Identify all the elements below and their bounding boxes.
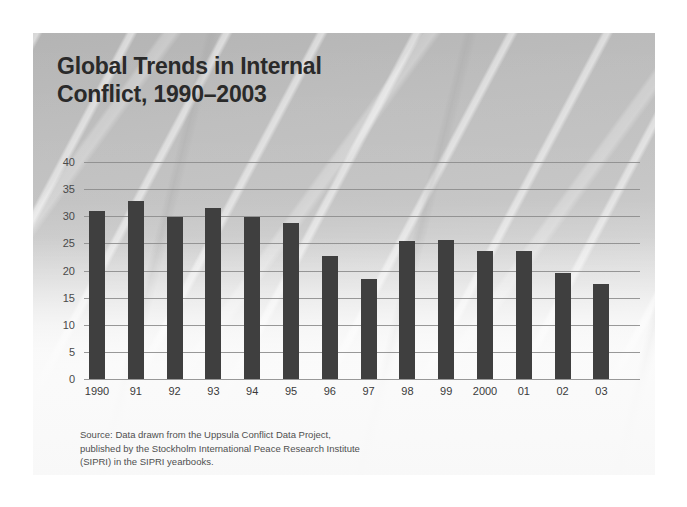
- y-axis-label: 35: [63, 183, 75, 195]
- source-note: Source: Data drawn from the Uppsula Conf…: [80, 428, 550, 469]
- x-axis-label: 01: [518, 385, 530, 397]
- bar: [322, 256, 338, 379]
- slide-page: Global Trends in Internal Conflict, 1990…: [0, 0, 687, 507]
- x-axis-label: 1990: [85, 385, 109, 397]
- y-axis-label: 15: [63, 292, 75, 304]
- y-axis-label: 10: [63, 319, 75, 331]
- x-axis-label: 99: [440, 385, 452, 397]
- bar: [555, 273, 571, 379]
- bar: [516, 251, 532, 379]
- y-axis-label: 0: [69, 373, 75, 385]
- x-axis-label: 93: [207, 385, 219, 397]
- bar-chart: 0510152025303540 19909192939495969798992…: [33, 33, 655, 475]
- x-axis-label: 98: [401, 385, 413, 397]
- bar: [89, 211, 105, 379]
- bar: [438, 240, 454, 379]
- x-axis-label: 03: [595, 385, 607, 397]
- x-axis-label: 02: [556, 385, 568, 397]
- bar: [593, 284, 609, 379]
- source-line-3: (SIPRI) in the SIPRI yearbooks.: [80, 455, 550, 469]
- bar: [361, 279, 377, 379]
- y-axis-label: 30: [63, 210, 75, 222]
- y-axis-label: 20: [63, 265, 75, 277]
- source-line-1: Source: Data drawn from the Uppsula Conf…: [80, 428, 550, 442]
- bar: [205, 208, 221, 379]
- bar-series: [84, 162, 640, 379]
- y-axis-label: 25: [63, 237, 75, 249]
- bar: [244, 217, 260, 379]
- x-axis-label: 97: [362, 385, 374, 397]
- y-axis-label: 5: [69, 346, 75, 358]
- x-axis-label: 96: [324, 385, 336, 397]
- bar: [399, 241, 415, 379]
- x-axis-label: 95: [285, 385, 297, 397]
- gridline: [84, 379, 640, 380]
- source-line-2: published by the Stockholm International…: [80, 442, 550, 456]
- bar: [283, 223, 299, 379]
- y-axis-label: 40: [63, 156, 75, 168]
- x-axis-label: 2000: [473, 385, 497, 397]
- plot-area: 0510152025303540 19909192939495969798992…: [84, 162, 640, 379]
- x-axis-label: 92: [168, 385, 180, 397]
- bar: [128, 201, 144, 379]
- x-axis-label: 94: [246, 385, 258, 397]
- bar: [477, 251, 493, 379]
- x-axis-label: 91: [130, 385, 142, 397]
- bar: [167, 217, 183, 379]
- slide-card: Global Trends in Internal Conflict, 1990…: [33, 33, 655, 475]
